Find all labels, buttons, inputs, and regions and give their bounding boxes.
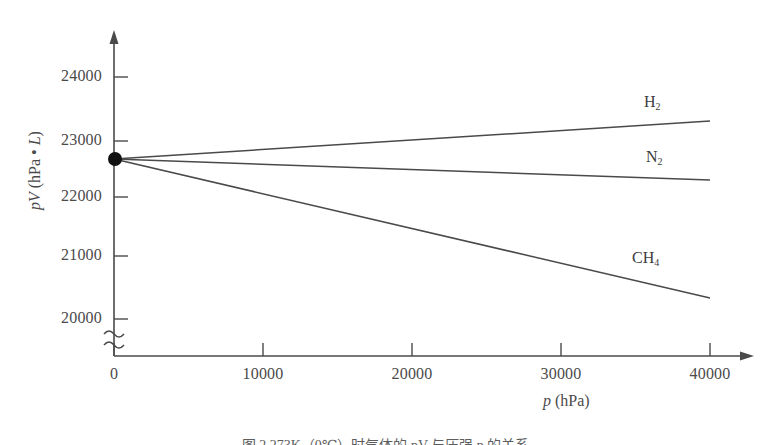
y-tick-label-20000: 20000 [10,309,102,327]
x-axis-title-units: (hPa) [551,392,590,409]
origin-data-point-marker [108,152,122,166]
x-tick-label-10000: 10000 [213,365,313,383]
y-tick-label-24000: 24000 [10,67,102,85]
y-tick-label-22000: 22000 [10,187,102,205]
x-tick-label-20000: 20000 [362,365,462,383]
series-label-h2-element: H [644,93,656,110]
series-label-h2-subscript: 2 [656,101,661,112]
y-axis-ticks [114,77,128,319]
series-label-ch4-element: CH [632,249,654,266]
y-axis-title-dot: • [26,145,43,159]
series-line-ch4 [114,159,710,298]
y-tick-label-23000: 23000 [10,131,102,149]
y-axis-title: pV (hPa • L) [14,0,32,40]
series-label-h2: H2 [644,93,661,111]
y-axis-title-units-close: ) [26,131,43,136]
x-tick-label-30000: 30000 [511,365,611,383]
series-label-n2: N2 [646,148,663,166]
x-axis-title-p: p [543,392,551,409]
series-label-n2-element: N [646,148,658,165]
x-tick-label-40000: 40000 [660,365,760,383]
series-label-ch4: CH4 [632,249,659,267]
series-line-n2 [114,159,710,180]
x-axis-ticks [114,343,710,356]
x-axis-arrowhead [740,352,754,361]
y-axis-title-l: L [26,136,43,145]
x-tick-label-0: 0 [94,365,134,383]
y-axis-arrowhead [110,30,119,44]
chart-figure: 24000 23000 22000 21000 20000 0 10000 20… [0,0,771,445]
figure-caption: 图 2 273K（0℃）时气体的 pV 与压强 p 的关系 [0,434,771,445]
x-axis-title: p (hPa) [543,392,590,410]
y-axis-title-units-open: (hPa [26,159,43,192]
y-axis-title-p: p [26,202,43,210]
series-line-h2 [114,121,710,159]
series-label-n2-subscript: 2 [658,156,663,167]
y-axis-title-v: V [26,192,43,202]
y-tick-label-21000: 21000 [10,246,102,264]
series-label-ch4-subscript: 4 [654,257,659,268]
